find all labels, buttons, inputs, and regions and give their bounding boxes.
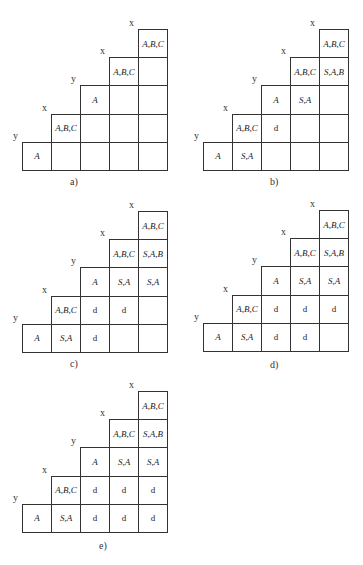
table-cell: A,B,C [290, 57, 320, 86]
input-symbol-label: x [223, 103, 228, 113]
table-cell [319, 142, 349, 171]
table-cell: A [22, 324, 52, 353]
table-cell: d [109, 296, 139, 325]
table-cell: S,A [138, 447, 168, 476]
table-cell: S,A [51, 504, 81, 533]
input-symbol-label: y [252, 74, 257, 84]
table-cell: A,B,C [232, 295, 262, 324]
table-cell: S,A,B [138, 419, 168, 448]
table-cell: S,A [109, 447, 139, 476]
table-cell [138, 114, 168, 143]
input-symbol-label: x [100, 408, 105, 418]
table-cell: d [109, 476, 139, 505]
table-cell: A,B,C [138, 29, 168, 58]
input-symbol-label: y [13, 131, 18, 141]
table-cell: S,A [290, 266, 320, 295]
table-cell: d [319, 295, 349, 324]
table-cell: A,B,C [51, 476, 81, 505]
table-cell [319, 114, 349, 143]
table-cell: d [261, 295, 291, 324]
table-cell: A [80, 447, 110, 476]
table-cell [51, 142, 81, 171]
table-cell: A,B,C [109, 57, 139, 86]
input-symbol-label: x [42, 465, 47, 475]
table-cell: d [261, 114, 291, 143]
input-symbol-label: x [129, 18, 134, 28]
table-cell: A [22, 142, 52, 171]
panel-caption: a) [70, 176, 78, 187]
input-symbol-label: y [252, 255, 257, 265]
input-symbol-label: y [13, 313, 18, 323]
input-symbol-label: x [129, 380, 134, 390]
input-symbol-label: x [310, 199, 315, 209]
table-cell: d [109, 504, 139, 533]
table-cell: A [261, 85, 291, 114]
table-cell: d [290, 295, 320, 324]
table-cell: S,A,B [319, 238, 349, 267]
input-symbol-label: x [129, 200, 134, 210]
table-cell: d [80, 504, 110, 533]
table-cell: S,A [138, 267, 168, 296]
table-cell [138, 324, 168, 353]
table-cell: d [80, 296, 110, 325]
table-cell [290, 114, 320, 143]
table-cell: S,A [290, 85, 320, 114]
input-symbol-label: x [42, 285, 47, 295]
input-symbol-label: y [194, 131, 199, 141]
table-cell [109, 142, 139, 171]
table-cell: S,A,B [319, 57, 349, 86]
table-cell: d [80, 476, 110, 505]
table-cell: A,B,C [319, 210, 349, 239]
table-cell: S,A,B [138, 239, 168, 268]
table-cell: A [22, 504, 52, 533]
table-cell: S,A [232, 142, 262, 171]
input-symbol-label: x [100, 46, 105, 56]
input-symbol-label: x [281, 46, 286, 56]
input-symbol-label: y [71, 436, 76, 446]
table-cell: A [203, 142, 233, 171]
input-symbol-label: y [71, 256, 76, 266]
table-cell [109, 114, 139, 143]
table-cell: d [261, 323, 291, 352]
input-symbol-label: y [194, 312, 199, 322]
table-cell [138, 85, 168, 114]
table-cell: A,B,C [232, 114, 262, 143]
input-symbol-label: x [223, 284, 228, 294]
table-cell: S,A [232, 323, 262, 352]
table-cell: A [203, 323, 233, 352]
table-cell: S,A [51, 324, 81, 353]
table-cell: A [80, 267, 110, 296]
table-cell: A,B,C [290, 238, 320, 267]
table-cell [109, 324, 139, 353]
table-cell: A,B,C [319, 29, 349, 58]
table-cell [80, 142, 110, 171]
panel-caption: b) [270, 176, 278, 187]
table-cell: S,A [109, 267, 139, 296]
table-cell [319, 323, 349, 352]
table-cell: A,B,C [138, 391, 168, 420]
table-cell [80, 114, 110, 143]
table-cell: A,B,C [51, 296, 81, 325]
table-cell: A,B,C [109, 419, 139, 448]
table-cell: A,B,C [51, 114, 81, 143]
input-symbol-label: x [310, 18, 315, 28]
table-cell [109, 85, 139, 114]
table-cell: A [261, 266, 291, 295]
table-cell: A,B,C [138, 211, 168, 240]
panel-caption: c) [70, 358, 78, 369]
input-symbol-label: y [71, 74, 76, 84]
table-cell: A [80, 85, 110, 114]
table-cell: d [138, 504, 168, 533]
table-cell [261, 142, 291, 171]
table-cell [319, 85, 349, 114]
table-cell [138, 57, 168, 86]
table-cell: d [138, 476, 168, 505]
table-cell: A,B,C [109, 239, 139, 268]
table-cell [138, 142, 168, 171]
panel-caption: d) [270, 359, 278, 370]
input-symbol-label: x [281, 227, 286, 237]
table-cell: d [290, 323, 320, 352]
table-cell: S,A [319, 266, 349, 295]
table-cell: d [80, 324, 110, 353]
input-symbol-label: x [42, 103, 47, 113]
